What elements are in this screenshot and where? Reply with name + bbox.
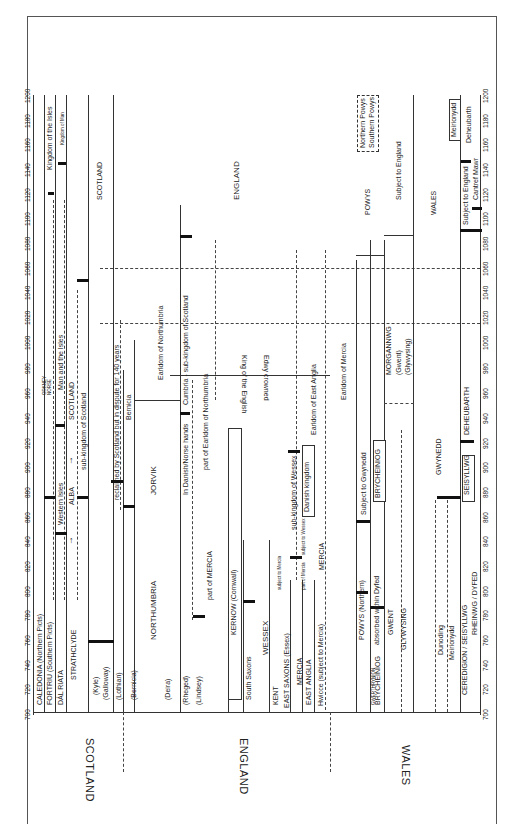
kent-label: KENT [272, 686, 280, 705]
axis-tick-left: 1060 [24, 261, 31, 275]
western-isles-label: Western Isles [57, 483, 65, 525]
axis-tick-left: 880 [24, 487, 31, 498]
arrow-up-icon-2: ↑ [69, 455, 74, 465]
axis-tick-right: 700 [482, 709, 489, 720]
earldom-northumbria-label: Earldom of Northumbria [157, 306, 165, 380]
left-axis-line [33, 95, 34, 715]
mercia-label: MERCIA [296, 658, 304, 685]
axis-tick-left: 1120 [24, 188, 31, 202]
axis-tick-left: 980 [24, 364, 31, 375]
jorvik-top-line [134, 400, 180, 401]
rheged-label: (Rheged) [182, 676, 190, 705]
axis-tick-left: 940 [24, 413, 31, 424]
powys-label: POWYS [364, 189, 372, 215]
alba-mark-2 [77, 496, 88, 499]
cumbria-mark [180, 412, 190, 415]
morgannwg-divider [384, 403, 414, 404]
southern-powys-label: Southern Powys [368, 97, 376, 148]
man-isles-label: Man and the Isles [57, 335, 65, 390]
axis-tick-right: 760 [482, 635, 489, 646]
earldom-mercia-label: Earldom of Mercia [340, 343, 348, 400]
axis-tick-right: 740 [482, 660, 489, 671]
axis-tick-left: 1180 [24, 114, 31, 128]
axis-tick-right: 1200 [482, 89, 489, 103]
eng-dash-h1 [100, 268, 480, 269]
cumbria-end-mark [180, 235, 192, 238]
wessex-crown-line [170, 375, 330, 376]
eng-dash-4 [296, 250, 297, 580]
axis-tick-right: 900 [482, 462, 489, 473]
region-scotland: SCOTLAND [86, 738, 94, 802]
deheubarth-label: DEHEUBARTH [463, 387, 471, 435]
axis-tick-left: 760 [24, 635, 31, 646]
axis-tick-left: 820 [24, 561, 31, 572]
deira-label: (Deira) [164, 679, 172, 700]
axis-tick-right: 880 [482, 487, 489, 498]
jorvik-start-mark [123, 505, 135, 508]
cantref-mark [472, 207, 482, 210]
axis-tick-left: 1140 [24, 163, 31, 177]
scotland-inner-label: SCOTLAND [68, 382, 76, 420]
axis-tick-right: 940 [482, 413, 489, 424]
eng-col-2 [134, 340, 135, 712]
region-wales: WALES [402, 745, 410, 786]
northumbria-label: NORTHUMBRIA [150, 581, 158, 640]
brycheiniog2-label: BRYCHEINIOG [374, 449, 382, 498]
axis-tick-left: 1040 [24, 286, 31, 300]
scot-col-4 [88, 95, 89, 712]
reclaimed-mark [111, 480, 123, 483]
page-frame [27, 16, 497, 824]
kingdom-man-label: Kingdom of Man [60, 112, 65, 145]
bottom-baseline [33, 712, 480, 713]
scotland-1058-mark [77, 279, 89, 282]
gwent-p-label: (Gwent) [395, 350, 403, 375]
bernicia-inner-label: Bernicia [125, 395, 133, 420]
scotland-england-divider [123, 712, 124, 772]
powys-top-line [356, 255, 384, 256]
axis-tick-right: 860 [482, 512, 489, 523]
axis-tick-right: 800 [482, 586, 489, 597]
kingdom-isles-label: Kingdom of the Isles [46, 107, 54, 170]
axis-tick-right: 1080 [482, 237, 489, 251]
kernow-box [228, 428, 242, 700]
eng-dash-5 [325, 250, 326, 710]
cantref-mawr-label: Cantref Mawr [472, 158, 480, 200]
wales-dash-2 [435, 500, 436, 712]
morgannwg-label: MORGANNWG [385, 326, 393, 375]
cumbria-label: Cumbria - sub-kingdom of Scotland [182, 295, 190, 405]
powys-mark [356, 591, 368, 594]
axis-tick-right: 980 [482, 364, 489, 375]
western-isles-mark [55, 532, 67, 535]
sub-kingdom-wessex-label: sub-kingdom of Wessex [290, 455, 298, 530]
axis-tick-right: 840 [482, 536, 489, 547]
wessex-label: WESSEX [262, 621, 270, 655]
axis-tick-left: 960 [24, 388, 31, 399]
eng-col-9 [314, 580, 315, 712]
axis-tick-right: 1140 [482, 163, 489, 177]
axis-tick-right: 820 [482, 561, 489, 572]
meirionydd-label: Meirionydd [448, 626, 456, 660]
strathclyde-label: STRATHCLYDE [70, 630, 78, 680]
axis-tick-right: 1180 [482, 114, 489, 128]
axis-tick-left: 800 [24, 586, 31, 597]
subject-england-label: Subject to England [395, 141, 403, 200]
northern-powys-label: Northern Powys [359, 98, 367, 148]
axis-tick-right: 1160 [482, 138, 489, 152]
axis-tick-left: 700 [24, 709, 31, 720]
axis-tick-right: 1060 [482, 261, 489, 275]
fortriu-label: FORTRIU (Southern Picts) [46, 622, 54, 705]
wales-subject-mark [460, 229, 482, 232]
axis-tick-left: 780 [24, 610, 31, 621]
east-saxons-label: EAST SAXONS (Essex) [283, 633, 291, 708]
eng-col-3 [180, 205, 181, 712]
eng-col-8 [302, 580, 303, 712]
edwy-label: Edwy crowned [262, 355, 270, 401]
kernow-label: KERNOW (Cornwall) [230, 570, 238, 635]
part-mercia-label: part of MERCIA [206, 551, 214, 600]
jorvik-label: JORVIK [150, 466, 158, 495]
danish-kingdom-label: Danish kingdom [303, 462, 311, 512]
axis-tick-left: 720 [24, 684, 31, 695]
axis-tick-left: 1160 [24, 138, 31, 152]
danish-norse-label: In Danish/Norse hands [182, 424, 190, 495]
meirionydd2-label: Meirionydd [450, 103, 458, 137]
